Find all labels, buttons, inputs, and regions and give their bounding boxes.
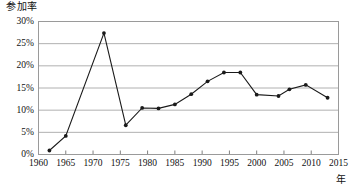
x-axis-title: 年 bbox=[336, 174, 346, 185]
data-point bbox=[173, 103, 177, 107]
y-axis-title: 参加率 bbox=[6, 1, 38, 13]
data-point bbox=[189, 92, 193, 96]
data-line bbox=[49, 33, 327, 150]
y-axis-tick-label: 15% bbox=[0, 83, 34, 93]
data-point bbox=[238, 71, 242, 75]
data-point bbox=[64, 134, 68, 138]
y-axis-tick-label: 30% bbox=[0, 16, 34, 26]
x-axis-tick-marks bbox=[39, 151, 339, 155]
data-point bbox=[255, 93, 259, 97]
data-point bbox=[206, 79, 210, 83]
plot-svg bbox=[38, 21, 339, 155]
data-point bbox=[288, 87, 292, 91]
data-point bbox=[222, 71, 226, 75]
data-point bbox=[48, 149, 52, 153]
plot-area bbox=[38, 21, 339, 155]
y-axis-tick-label: 5% bbox=[0, 127, 34, 137]
y-axis-tick-label: 25% bbox=[0, 38, 34, 48]
data-point bbox=[277, 94, 281, 98]
data-point bbox=[140, 106, 144, 110]
data-point bbox=[102, 31, 106, 35]
y-axis-tick-label: 10% bbox=[0, 105, 34, 115]
data-point bbox=[326, 96, 330, 100]
data-point bbox=[124, 123, 128, 127]
data-point bbox=[304, 83, 308, 87]
data-markers bbox=[48, 31, 330, 152]
y-axis-tick-label: 20% bbox=[0, 60, 34, 70]
data-point bbox=[157, 106, 161, 110]
x-axis-tick-label: 2015 bbox=[319, 158, 358, 169]
participation-rate-line-chart: 参加率 0%5%10%15%20%25%30% 1960196519701975… bbox=[0, 0, 358, 192]
